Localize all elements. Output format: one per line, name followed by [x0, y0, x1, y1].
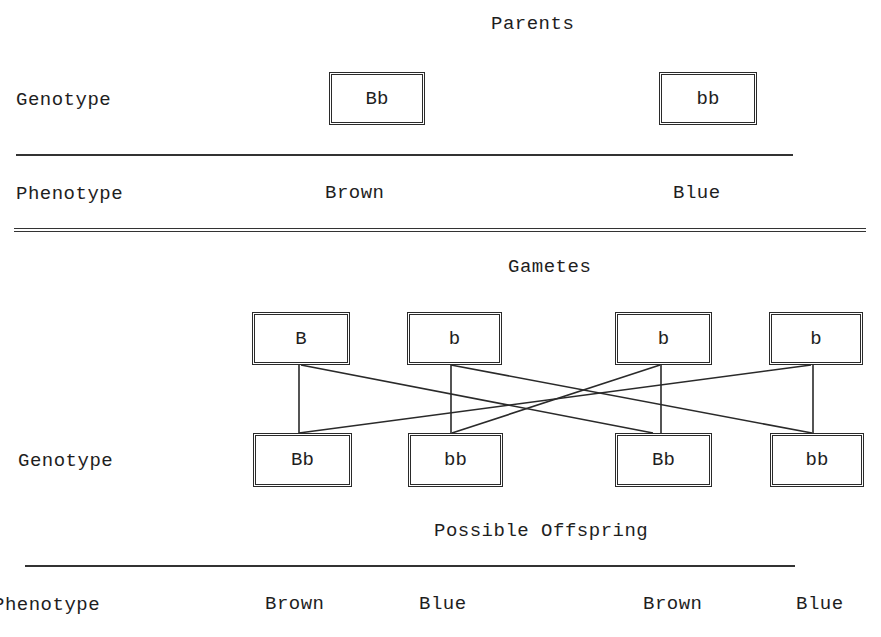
offspring-genotype-label: Genotype	[18, 450, 113, 472]
offspring-genotype-2: bb	[444, 449, 467, 471]
offspring-genotype-1: Bb	[291, 449, 314, 471]
offspring-phenotype-4: Blue	[796, 593, 844, 615]
offspring-genotype-4: bb	[806, 449, 829, 471]
offspring-phenotype-2: Blue	[419, 593, 467, 615]
offspring-box-1: Bb	[253, 433, 352, 487]
offspring-divider	[25, 565, 795, 567]
link-b4-to-offspring-1	[299, 365, 811, 433]
link-B-to-offspring-3	[301, 365, 653, 433]
offspring-title: Possible Offspring	[434, 520, 648, 542]
offspring-box-3: Bb	[615, 433, 712, 487]
offspring-box-2: bb	[408, 433, 503, 487]
offspring-phenotype-label: Phenotype	[0, 594, 100, 616]
offspring-phenotype-1: Brown	[265, 593, 325, 615]
link-b2-to-offspring-4	[451, 365, 812, 433]
offspring-box-4: bb	[770, 433, 864, 487]
offspring-genotype-3: Bb	[652, 449, 675, 471]
offspring-phenotype-3: Brown	[643, 593, 703, 615]
